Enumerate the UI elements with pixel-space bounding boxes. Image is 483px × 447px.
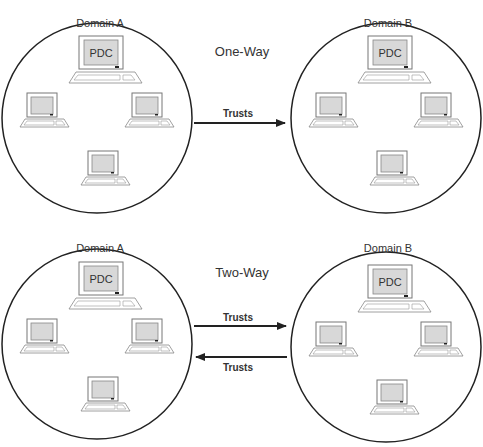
pdc-label-b-bottom: PDC <box>378 276 401 288</box>
trusts-label-bottom-forward: Trusts <box>223 312 253 323</box>
pdc-label-b-top: PDC <box>378 47 401 59</box>
domain-b-label-top: Domain B <box>364 17 412 29</box>
two-way-label: Two-Way <box>215 265 269 280</box>
pdc-label-a-bottom: PDC <box>89 273 112 285</box>
domain-a-label-bottom: Domain A <box>76 242 124 254</box>
domain-b-label-bottom: Domain B <box>364 242 412 254</box>
trusts-label-bottom-reverse: Trusts <box>223 362 253 373</box>
one-way-label: One-Way <box>215 44 269 59</box>
pdc-label-a-top: PDC <box>89 47 112 59</box>
domain-a-label-top: Domain A <box>76 17 124 29</box>
trust-diagram-canvas <box>0 0 483 447</box>
trusts-label-top: Trusts <box>223 108 253 119</box>
